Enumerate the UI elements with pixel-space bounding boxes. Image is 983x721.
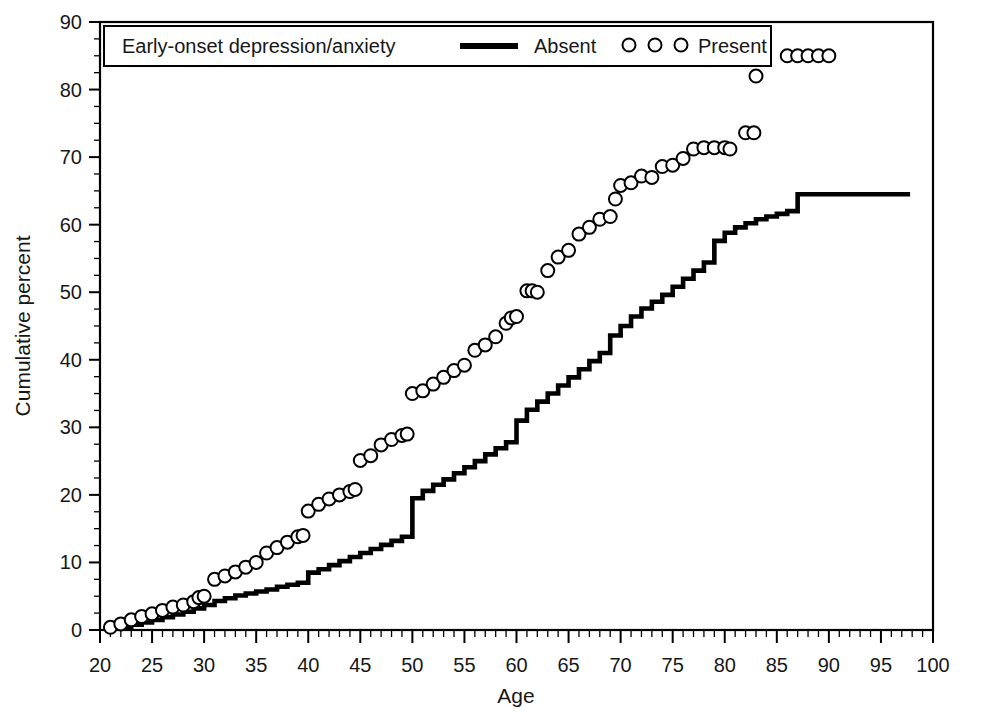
x-tick-label: 20 <box>89 654 111 676</box>
x-tick-label: 50 <box>401 654 423 676</box>
y-tick-label: 90 <box>60 11 82 33</box>
data-point-present <box>489 330 502 343</box>
data-point-present <box>364 449 377 462</box>
x-tick-label: 90 <box>818 654 840 676</box>
y-tick-label: 60 <box>60 214 82 236</box>
data-point-present <box>562 244 575 257</box>
plot-frame <box>100 22 933 630</box>
legend: Early-onset depression/anxiety Absent Pr… <box>104 26 771 66</box>
x-tick-label: 35 <box>245 654 267 676</box>
y-tick-label: 80 <box>60 79 82 101</box>
x-tick-label: 30 <box>193 654 215 676</box>
cumulative-percent-chart: 0102030405060708090 20253035404550556065… <box>0 0 983 721</box>
data-point-present <box>458 359 471 372</box>
y-tick-label: 30 <box>60 416 82 438</box>
series-present-markers <box>104 49 835 634</box>
data-point-present <box>349 483 362 496</box>
x-tick-label: 95 <box>870 654 892 676</box>
x-tick-label: 40 <box>297 654 319 676</box>
data-point-present <box>609 192 622 205</box>
data-point-present <box>723 143 736 156</box>
data-point-present <box>749 70 762 83</box>
x-tick-label: 60 <box>505 654 527 676</box>
x-tick-label: 65 <box>557 654 579 676</box>
y-tick-label: 10 <box>60 551 82 573</box>
data-point-present <box>677 152 690 165</box>
data-point-present <box>541 264 554 277</box>
data-point-present <box>510 310 523 323</box>
x-tick-label: 25 <box>141 654 163 676</box>
y-axis-title: Cumulative percent <box>11 235 34 416</box>
x-axis-title: Age <box>497 684 534 707</box>
x-tick-label: 55 <box>453 654 475 676</box>
y-tick-label: 0 <box>71 619 82 641</box>
legend-swatch-present-circles <box>623 39 688 52</box>
data-point-present <box>531 286 544 299</box>
x-tick-label: 45 <box>349 654 371 676</box>
x-tick-label: 75 <box>662 654 684 676</box>
data-point-present <box>401 428 414 441</box>
data-point-present <box>747 126 760 139</box>
x-tick-label: 80 <box>714 654 736 676</box>
figure-container: 0102030405060708090 20253035404550556065… <box>0 0 983 721</box>
data-point-present <box>822 49 835 62</box>
y-tick-label: 40 <box>60 349 82 371</box>
data-point-present <box>604 210 617 223</box>
x-tick-label: 100 <box>916 654 949 676</box>
x-axis-tick-labels: 20253035404550556065707580859095100 <box>89 654 950 676</box>
series-absent-step-line <box>110 194 910 628</box>
legend-label-present: Present <box>698 35 767 57</box>
y-tick-label: 20 <box>60 484 82 506</box>
data-point-present <box>250 556 263 569</box>
y-tick-label: 70 <box>60 146 82 168</box>
x-tick-label: 70 <box>610 654 632 676</box>
data-point-present <box>645 171 658 184</box>
x-tick-label: 85 <box>766 654 788 676</box>
legend-label-absent: Absent <box>534 35 597 57</box>
legend-title: Early-onset depression/anxiety <box>122 35 395 57</box>
data-point-present <box>198 590 211 603</box>
y-tick-label: 50 <box>60 281 82 303</box>
data-point-present <box>297 529 310 542</box>
y-axis-tick-labels: 0102030405060708090 <box>60 11 82 641</box>
